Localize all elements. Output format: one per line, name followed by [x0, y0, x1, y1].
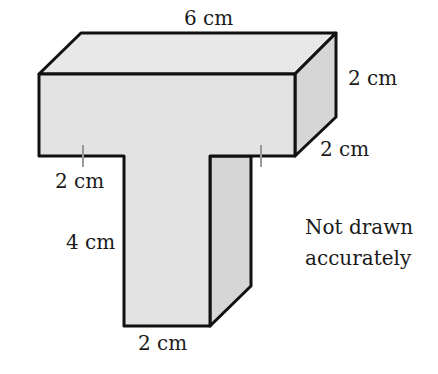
note-line-1: Not drawn	[305, 215, 413, 239]
label-right-height: 2 cm	[348, 66, 397, 90]
label-stem-width: 2 cm	[138, 331, 187, 355]
label-top-length: 6 cm	[184, 6, 233, 30]
front-face	[39, 74, 295, 326]
label-left-overhang: 2 cm	[55, 169, 104, 193]
top-face	[39, 33, 336, 74]
stem-side-face	[210, 156, 251, 326]
t-prism-diagram: 6 cm 2 cm 2 cm 2 cm 4 cm 2 cm Not drawn …	[0, 0, 438, 374]
label-right-depth: 2 cm	[320, 137, 369, 161]
note-line-2: accurately	[305, 246, 412, 270]
label-stem-height: 4 cm	[66, 230, 115, 254]
